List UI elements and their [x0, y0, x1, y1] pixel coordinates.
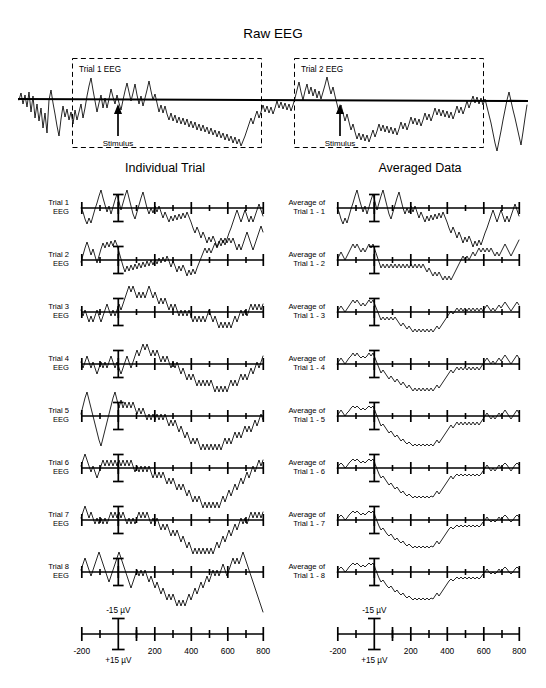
average-row-5-trace	[337, 406, 519, 446]
trial-row-8-label-line2: EEG	[53, 571, 69, 580]
stimulus-label-trial-2: Stimulus	[325, 139, 356, 148]
trial-row-5-trace	[81, 392, 263, 450]
trial-row-2-label-line1: Trial 2	[48, 250, 69, 259]
average-row-7-label-line1: Average of	[288, 510, 325, 519]
trial-row-8-trace	[81, 552, 263, 612]
trial-row-1-label-line1: Trial 1	[48, 198, 69, 207]
left-axis-line-group	[81, 627, 264, 641]
average-row-8-label-line1: Average of	[288, 562, 325, 571]
right-axis-tick-label-1: 200	[404, 646, 418, 656]
average-row-2-axis	[337, 254, 520, 266]
trial-row-6: Trial 6 EEG	[48, 454, 264, 508]
left-axis-tick-label-2: 400	[184, 646, 198, 656]
left-axis-scale-top-label: -15 µV	[106, 606, 131, 615]
individual-trial-heading: Individual Trial	[125, 161, 205, 175]
average-row-8-label-line2: Trial 1 - 8	[293, 571, 325, 580]
trial-row-1-label-line2: EEG	[53, 207, 69, 216]
figure-canvas: Raw EEG Trial 1 EEG Trial 2 EEG Stimulus…	[0, 0, 546, 688]
average-row-3-label-line1: Average of	[288, 302, 325, 311]
trial-row-4-label-line1: Trial 4	[48, 354, 69, 363]
right-axis-tick-label-2: 400	[440, 646, 454, 656]
trial-row-6-label-line1: Trial 6	[48, 458, 69, 467]
trial-row-4: Trial 4 EEG	[48, 344, 264, 392]
right-axis-scale-top-label: -15 µV	[362, 606, 387, 615]
average-row-4-axis	[337, 358, 520, 370]
raw-eeg-panel: Trial 1 EEG Trial 2 EEG Stimulus Stimulu…	[18, 59, 528, 152]
trial-row-1: Trial 1 EEG	[48, 190, 264, 247]
average-row-6: Average of Trial 1 - 6	[288, 454, 520, 498]
average-row-5: Average of Trial 1 - 5	[288, 402, 520, 446]
averaged-data-column: Average of Trial 1 - 1	[288, 190, 520, 600]
right-axis-tick-label-3: 600	[477, 646, 491, 656]
raw-eeg-title: Raw EEG	[243, 26, 302, 41]
trial-row-1-trace	[81, 190, 263, 247]
average-row-3-trace	[337, 300, 519, 332]
trial-row-7-label-line2: EEG	[53, 519, 69, 528]
trial-row-5-label-line1: Trial 5	[48, 406, 69, 415]
average-row-8: Average of Trial 1 - 8	[288, 558, 520, 600]
average-row-1-trace	[337, 190, 519, 247]
trial-row-3: Trial 3 EEG	[48, 286, 264, 328]
average-row-7-trace	[337, 511, 519, 548]
average-row-2-label-line2: Trial 1 - 2	[293, 259, 325, 268]
trial-row-7: Trial 7 EEG	[48, 506, 264, 554]
trial-row-2-axis	[81, 254, 264, 266]
trial-row-7-trace	[81, 506, 263, 554]
trial-2-eeg-box-label: Trial 2 EEG	[301, 65, 343, 74]
right-axis-tick-label-0: -200	[329, 646, 346, 656]
average-row-3-axis	[337, 306, 520, 318]
averaged-data-heading: Averaged Data	[378, 161, 461, 175]
average-row-5-label-line2: Trial 1 - 5	[293, 415, 325, 424]
average-row-2-label-line1: Average of	[288, 250, 325, 259]
trial-row-8-label-line1: Trial 8	[48, 562, 69, 571]
average-row-6-label-line1: Average of	[288, 458, 325, 467]
average-row-1-label-line1: Average of	[288, 198, 325, 207]
erp-averaging-figure: Raw EEG Trial 1 EEG Trial 2 EEG Stimulus…	[0, 0, 546, 688]
right-axis-line-group	[337, 627, 520, 641]
average-row-6-label-line2: Trial 1 - 6	[293, 467, 325, 476]
average-row-4-label-line2: Trial 1 - 4	[293, 363, 325, 372]
trial-row-6-label-line2: EEG	[53, 467, 69, 476]
average-row-4-label-line1: Average of	[288, 354, 325, 363]
trial-row-7-label-line1: Trial 7	[48, 510, 69, 519]
trial-row-3-label-line1: Trial 3	[48, 302, 69, 311]
left-axis-tick-label-3: 600	[221, 646, 235, 656]
right-axis-scale: -15 µV +15 µV -200 200 400 600 800	[329, 606, 526, 665]
trial-row-3-trace	[81, 286, 263, 328]
average-row-3-label-line2: Trial 1 - 3	[293, 311, 325, 320]
average-row-4-trace	[337, 353, 519, 391]
average-row-3: Average of Trial 1 - 3	[288, 298, 520, 332]
trial-row-5: Trial 5 EEG	[48, 392, 264, 450]
raw-eeg-trace	[19, 77, 527, 151]
average-row-4: Average of Trial 1 - 4	[288, 350, 520, 391]
average-row-6-trace	[337, 459, 519, 498]
stimulus-arrow-trial-2: Stimulus	[325, 104, 356, 148]
left-axis-scale: -15 µV +15 µV -200 200 400 600 800	[73, 606, 270, 665]
trial-1-eeg-box-label: Trial 1 EEG	[79, 65, 121, 74]
trial-row-6-trace	[81, 454, 263, 508]
average-row-7: Average of Trial 1 - 7	[288, 506, 520, 548]
trial-row-4-trace	[81, 344, 263, 392]
left-axis-scale-bottom-label: +15 µV	[105, 656, 132, 665]
left-axis-tick-label-4: 800	[256, 646, 270, 656]
trial-row-3-label-line2: EEG	[53, 311, 69, 320]
average-row-1-label-line2: Trial 1 - 1	[293, 207, 325, 216]
trial-row-2-trace	[81, 226, 263, 276]
individual-trial-column: Trial 1 EEG	[48, 190, 264, 612]
trial-row-2: Trial 2 EEG	[48, 226, 264, 276]
right-axis-tick-label-4: 800	[512, 646, 526, 656]
average-row-8-trace	[337, 563, 519, 600]
trial-row-8: Trial 8 EEG	[48, 552, 264, 612]
trial-row-8-axis	[81, 566, 264, 578]
trial-row-5-label-line2: EEG	[53, 415, 69, 424]
left-axis-tick-label-0: -200	[73, 646, 90, 656]
average-row-5-label-line1: Average of	[288, 406, 325, 415]
stimulus-label-trial-1: Stimulus	[103, 139, 134, 148]
average-row-2: Average of Trial 1 - 2	[288, 240, 520, 280]
trial-row-4-label-line2: EEG	[53, 363, 69, 372]
stimulus-arrow-trial-1: Stimulus	[103, 104, 134, 148]
trial-row-2-label-line2: EEG	[53, 259, 69, 268]
average-row-1: Average of Trial 1 - 1	[288, 190, 520, 247]
average-row-7-label-line2: Trial 1 - 7	[293, 519, 325, 528]
left-axis-tick-label-1: 200	[148, 646, 162, 656]
